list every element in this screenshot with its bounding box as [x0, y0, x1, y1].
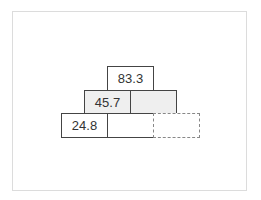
pyramid-cell-r2-c1[interactable]: [107, 113, 154, 138]
pyramid-cell-r0-c0[interactable]: 83.3: [107, 66, 154, 91]
pyramid-cell-r2-c0[interactable]: 24.8: [61, 113, 108, 138]
pyramid-cell-r1-c1[interactable]: [130, 90, 177, 114]
pyramid-cell-r1-c0[interactable]: 45.7: [84, 90, 131, 114]
pyramid-cell-r2-c2-selected[interactable]: [153, 113, 200, 138]
